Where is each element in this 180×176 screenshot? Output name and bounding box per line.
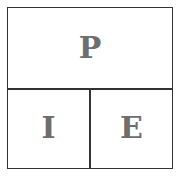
top-cell-label: P xyxy=(7,33,173,63)
bottom-right-cell-label: E xyxy=(90,113,173,143)
bottom-left-cell-label: I xyxy=(7,113,90,143)
